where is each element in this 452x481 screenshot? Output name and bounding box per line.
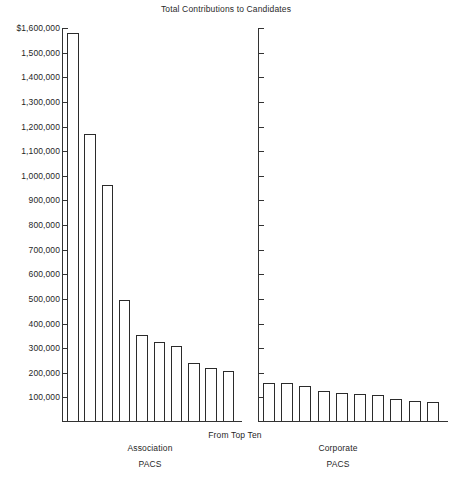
bar: [67, 33, 79, 421]
bar: [154, 342, 166, 421]
chart-figure: Total Contributions to Candidates $1,600…: [0, 0, 452, 481]
bar: [299, 386, 311, 421]
y-axis-tick-label: 1,200,000: [0, 122, 60, 132]
bar: [354, 394, 366, 421]
y-axis-tick-label: $1,600,000: [0, 23, 60, 33]
subtitle-from-top-ten: From Top Ten: [180, 430, 290, 440]
y-axis-tick-label: 700,000: [0, 245, 60, 255]
bar: [390, 399, 402, 421]
y-axis-tick-label: 1,400,000: [0, 72, 60, 82]
bar: [188, 363, 200, 421]
y-axis-tick-label: 600,000: [0, 269, 60, 279]
bar: [318, 391, 330, 421]
bar: [205, 368, 217, 421]
bar: [372, 395, 384, 421]
chart-title: Total Contributions to Candidates: [0, 4, 452, 14]
y-axis-tick-label: 800,000: [0, 220, 60, 230]
x-axis-baseline-right: [258, 421, 448, 422]
panel-label-association-line2: PACS: [90, 459, 210, 469]
bar: [409, 401, 421, 421]
y-axis-tick-label: 1,300,000: [0, 97, 60, 107]
bar: [102, 185, 114, 421]
panel-corporate-pacs: [258, 28, 448, 422]
bar: [119, 300, 131, 421]
panel-label-association-line1: Association: [90, 443, 210, 453]
y-axis-tick-label: 900,000: [0, 195, 60, 205]
bar: [136, 335, 148, 421]
bar: [223, 371, 235, 421]
bar-group-corporate: [259, 28, 441, 421]
y-axis-label-group: $1,600,0001,500,0001,400,0001,300,0001,2…: [0, 0, 60, 440]
y-axis-tick-label: 100,000: [0, 392, 60, 402]
bar-group-association: [63, 28, 235, 421]
y-axis-tick-label: 1,100,000: [0, 146, 60, 156]
bar: [171, 346, 183, 421]
y-axis-tick-label: 200,000: [0, 368, 60, 378]
bar: [281, 383, 293, 421]
y-axis-tick-label: 1,000,000: [0, 171, 60, 181]
bar: [427, 402, 439, 421]
y-axis-tick-label: 1,500,000: [0, 48, 60, 58]
panel-association-pacs: [62, 28, 242, 422]
panel-label-corporate-line2: PACS: [268, 459, 408, 469]
x-axis-baseline-left: [62, 421, 242, 422]
y-axis-tick-label: 300,000: [0, 343, 60, 353]
bar: [84, 134, 96, 421]
bar: [336, 393, 348, 421]
bar: [263, 383, 275, 421]
panel-label-corporate-line1: Corporate: [268, 443, 408, 453]
y-axis-tick-label: 400,000: [0, 319, 60, 329]
y-axis-tick-label: 500,000: [0, 294, 60, 304]
